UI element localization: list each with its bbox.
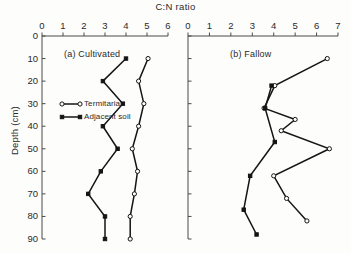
data-point-marker[interactable] xyxy=(135,169,139,173)
data-point-marker[interactable] xyxy=(128,214,132,218)
legend-marker-filled-square xyxy=(78,115,81,118)
data-point-marker[interactable] xyxy=(132,192,136,196)
data-point-marker[interactable] xyxy=(325,56,329,60)
legend-label-adjacent-soil: Adjacent soil xyxy=(84,112,131,121)
data-point-marker[interactable] xyxy=(99,170,102,173)
data-point-marker[interactable] xyxy=(146,56,150,60)
data-point-marker[interactable] xyxy=(270,84,273,87)
data-point-marker[interactable] xyxy=(101,125,104,128)
data-point-marker[interactable] xyxy=(142,102,146,106)
data-point-marker[interactable] xyxy=(128,237,132,241)
data-point-marker[interactable] xyxy=(130,147,134,151)
data-point-marker[interactable] xyxy=(101,79,104,82)
series-fallow-adjacent-soil xyxy=(242,84,276,236)
plot-area xyxy=(0,0,351,253)
data-point-marker[interactable] xyxy=(124,57,127,60)
series-cultivated-adjacent-soil xyxy=(87,57,128,241)
data-point-marker[interactable] xyxy=(137,79,141,83)
data-point-marker[interactable] xyxy=(293,117,297,121)
data-point-marker[interactable] xyxy=(87,192,90,195)
data-point-marker[interactable] xyxy=(248,174,251,177)
data-point-marker[interactable] xyxy=(305,219,309,223)
data-point-marker[interactable] xyxy=(255,233,258,236)
legend-marker-open-circle xyxy=(78,102,82,106)
data-point-marker[interactable] xyxy=(279,129,283,133)
panel-cultivated xyxy=(42,33,168,240)
data-point-marker[interactable] xyxy=(103,215,106,218)
series-line xyxy=(88,59,126,239)
legend-label-termitaria: Termitaria xyxy=(84,99,120,108)
data-point-marker[interactable] xyxy=(327,147,331,151)
series-cultivated-termitaria xyxy=(128,56,150,241)
series-line xyxy=(244,86,275,235)
legend xyxy=(60,102,82,119)
data-point-marker[interactable] xyxy=(137,124,141,128)
data-point-marker[interactable] xyxy=(284,196,288,200)
data-point-marker[interactable] xyxy=(103,237,106,240)
data-point-marker[interactable] xyxy=(116,147,119,150)
legend-marker-filled-square xyxy=(60,115,63,118)
panel-fallow xyxy=(188,33,338,240)
data-point-marker[interactable] xyxy=(272,174,276,178)
data-point-marker[interactable] xyxy=(273,140,276,143)
data-point-marker[interactable] xyxy=(263,106,266,109)
data-point-marker[interactable] xyxy=(121,102,124,105)
legend-marker-open-circle xyxy=(60,102,64,106)
panel-axis-frame xyxy=(188,36,338,239)
chart-figure: C:N ratio Depth (cm) (a) Cultivated (b) … xyxy=(0,0,351,253)
panel-axis-frame xyxy=(42,36,168,239)
data-point-marker[interactable] xyxy=(242,208,245,211)
series-fallow-termitaria xyxy=(262,56,332,223)
